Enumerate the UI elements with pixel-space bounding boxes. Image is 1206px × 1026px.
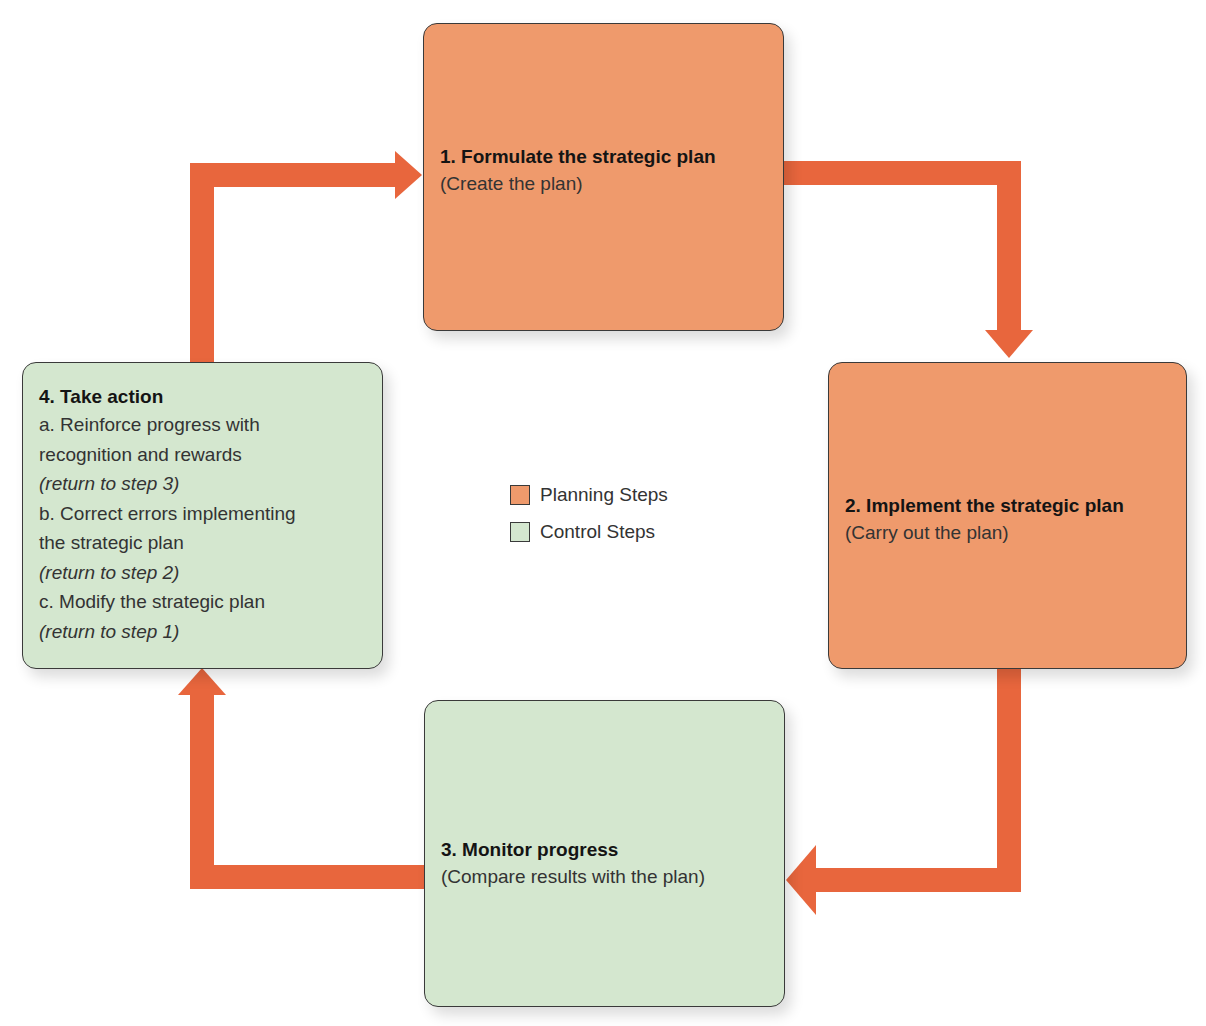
step-3-subtitle: (Compare results with the plan) (441, 863, 768, 890)
legend-item-planning: Planning Steps (510, 476, 668, 513)
arrow-step3-to-step4 (178, 668, 424, 889)
step-4-line-b1: b. Correct errors implementing (39, 499, 366, 529)
arrow-step2-to-step3 (786, 668, 1021, 915)
step-1-title: 1. Formulate the strategic plan (440, 143, 767, 170)
step-4-line-a-return: (return to step 3) (39, 469, 366, 499)
step-4-title: 4. Take action (39, 383, 366, 410)
arrow-step1-to-step2 (783, 161, 1033, 358)
step-1-subtitle: (Create the plan) (440, 170, 767, 197)
step-4-line-b2: the strategic plan (39, 528, 366, 558)
step-4-line-c1: c. Modify the strategic plan (39, 587, 366, 617)
legend-item-control: Control Steps (510, 513, 668, 550)
step-3-box: 3. Monitor progress (Compare results wit… (424, 700, 785, 1007)
step-4-line-a1: a. Reinforce progress with (39, 410, 366, 440)
legend: Planning Steps Control Steps (510, 476, 668, 550)
step-1-box: 1. Formulate the strategic plan (Create … (423, 23, 784, 331)
step-4-box: 4. Take action a. Reinforce progress wit… (22, 362, 383, 669)
step-4-line-b-return: (return to step 2) (39, 558, 366, 588)
step-2-title: 2. Implement the strategic plan (845, 492, 1170, 519)
control-swatch-icon (510, 522, 530, 542)
arrow-step4-to-step1 (190, 151, 422, 362)
step-4-line-c-return: (return to step 1) (39, 617, 366, 647)
step-4-line-a2: recognition and rewards (39, 440, 366, 470)
legend-label-planning: Planning Steps (540, 484, 668, 506)
planning-swatch-icon (510, 485, 530, 505)
step-3-title: 3. Monitor progress (441, 836, 768, 863)
step-2-subtitle: (Carry out the plan) (845, 519, 1170, 546)
step-2-box: 2. Implement the strategic plan (Carry o… (828, 362, 1187, 669)
legend-label-control: Control Steps (540, 521, 655, 543)
